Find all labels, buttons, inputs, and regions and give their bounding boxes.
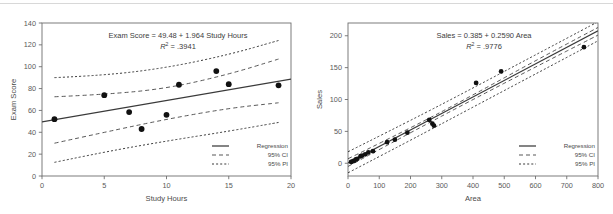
regression-equation-annotation: Sales = 0.385 + 0.2590 Area [436,31,532,40]
x-axis-tick-label: 5 [102,181,106,190]
chart-panel-exam-score: 05101520020406080100120140Study HoursExa… [0,0,306,214]
x-axis-tick-label: 600 [529,181,541,190]
legend-prediction-interval-label: 95% PI [268,160,288,167]
regression-equation-annotation: Exam Score = 49.48 + 1.964 Study Hours [109,31,248,40]
y-axis-tick-label: 0 [338,159,342,168]
x-axis-tick-label: 300 [436,181,448,190]
data-point [582,45,587,50]
data-point [52,116,58,122]
y-axis-title: Exam Score [9,79,18,120]
data-point [366,150,371,155]
data-point [164,112,170,118]
data-point [226,81,232,87]
legend-regression-label: Regression [257,142,289,149]
confidence-interval-lower [348,35,598,166]
x-axis-tick-label: 20 [287,181,295,190]
data-point [499,69,504,74]
x-axis-tick-label: 800 [592,181,604,190]
data-point [126,109,132,115]
scatter-plot-exam-score: 05101520020406080100120140Study HoursExa… [0,0,306,214]
prediction-interval-lower [348,41,598,173]
y-axis-tick-label: 40 [28,128,36,137]
chart-panel-sales: 0100200300400500600700800050100150200Are… [306,0,613,214]
data-point [371,149,376,154]
legend-confidence-interval-label: 95% CI [575,151,596,158]
confidence-interval-lower [54,103,278,143]
legend-regression-label: Regression [564,142,596,149]
confidence-interval-upper [54,59,278,97]
r-squared-annotation: R2 = .9776 [466,41,502,51]
prediction-interval-lower [54,122,278,162]
scatter-plot-sales: 0100200300400500600700800050100150200Are… [306,0,613,214]
data-point [213,68,219,74]
y-axis-tick-label: 60 [28,106,36,115]
data-point [276,82,282,88]
y-axis-title: Sales [315,90,324,109]
data-point [101,92,107,98]
x-axis-tick-label: 10 [162,181,170,190]
y-axis-tick-label: 100 [330,95,342,104]
x-axis-title: Area [465,194,482,203]
y-axis-tick-label: 50 [334,127,342,136]
x-axis-title: Study Hours [146,194,188,203]
x-axis-tick-label: 200 [404,181,416,190]
y-axis-tick-label: 200 [330,31,342,40]
x-axis-tick-label: 700 [561,181,573,190]
y-axis-tick-label: 120 [24,40,36,49]
legend-confidence-interval-label: 95% CI [268,151,289,158]
data-point [432,123,437,128]
x-axis-tick-label: 15 [225,181,233,190]
y-axis-tick-label: 140 [24,19,36,28]
x-axis-tick-label: 100 [373,181,385,190]
r-squared-annotation: R2 = .3941 [160,41,196,51]
y-axis-tick-label: 20 [28,150,36,159]
data-point [139,126,145,132]
y-axis-tick-label: 80 [28,84,36,93]
y-axis-tick-label: 150 [330,63,342,72]
data-point [392,137,397,142]
x-axis-tick-label: 500 [498,181,510,190]
data-point [176,82,182,88]
y-axis-tick-label: 0 [32,172,36,181]
regression-figure: 05101520020406080100120140Study HoursExa… [0,0,613,214]
x-axis-tick-label: 0 [346,181,350,190]
confidence-interval-upper [348,27,598,158]
x-axis-tick-label: 400 [467,181,479,190]
data-point [405,130,410,135]
y-axis-tick-label: 100 [24,62,36,71]
data-point [427,118,432,123]
data-point [385,140,390,145]
x-axis-tick-label: 0 [40,181,44,190]
data-point [474,81,479,86]
legend-prediction-interval-label: 95% PI [575,160,595,167]
